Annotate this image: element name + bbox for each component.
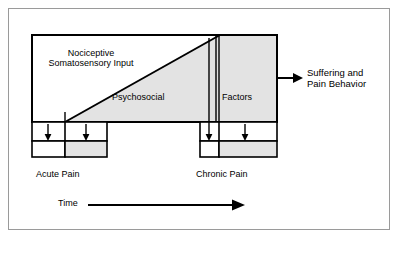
label-chronic-pain: Chronic Pain [196,169,248,179]
acute-bottom-cell-shaded [65,141,107,157]
figure-container: Nociceptive Somatosensory Input Psychoso… [0,0,400,256]
chronic-middle-row [200,122,277,141]
label-time: Time [58,198,78,208]
label-acute-pain: Acute Pain [36,169,80,179]
diagram-canvas [0,0,400,256]
label-factors: Factors [222,92,252,102]
chronic-bottom-cell-white [200,141,219,157]
label-suffering-and-pain-behavior: Suffering and Pain Behavior [307,68,366,90]
acute-bottom-cell-white [32,141,65,157]
time-arrow [88,200,245,211]
chronic-bottom-cell-shaded [219,141,277,157]
label-psychosocial: Psychosocial [112,92,165,102]
acute-middle-row [32,122,107,141]
label-nociceptive-somatosensory-input: Nociceptive Somatosensory Input [36,48,146,69]
output-arrow [278,73,303,83]
